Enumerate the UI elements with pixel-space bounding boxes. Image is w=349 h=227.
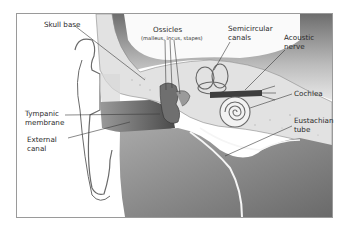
- label-semicircular-2: canals: [228, 34, 251, 42]
- label-external-2: canal: [27, 145, 46, 153]
- cochlea: [220, 97, 250, 127]
- label-eustachian-2: tube: [294, 126, 310, 134]
- label-acoustic-2: nerve: [284, 43, 305, 51]
- label-skull-base: Skull base: [44, 21, 80, 29]
- label-ossicles-detail: (malleus, incus, stapes): [141, 35, 203, 41]
- label-tympanic-2: membrane: [25, 119, 64, 127]
- label-cochlea: Cochlea: [294, 90, 323, 98]
- label-ossicles: Ossicles: [153, 26, 182, 34]
